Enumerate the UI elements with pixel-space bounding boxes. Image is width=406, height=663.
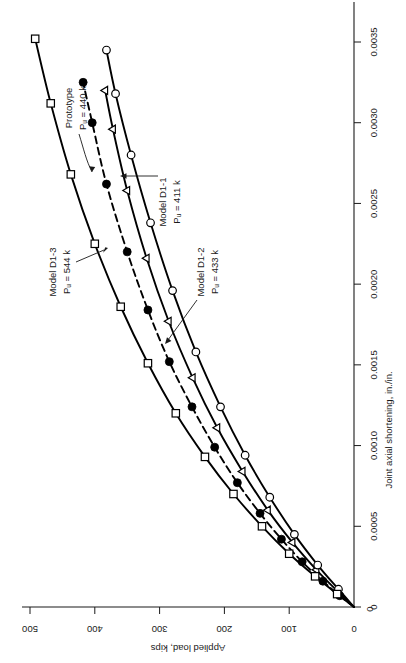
- marker-open-circle: [127, 151, 135, 159]
- marker-open-circle: [314, 561, 322, 569]
- marker-open-square: [172, 410, 179, 417]
- marker-model-d1-2: [291, 531, 299, 539]
- marker-filled-circle: [319, 577, 327, 585]
- marker-prototype: [277, 535, 285, 543]
- annotation-d1-2-label: Model D1-2: [195, 247, 206, 296]
- marker-prototype: [233, 479, 241, 487]
- annotation-d1-3-sub: Pᵤ = 544 k: [61, 250, 72, 294]
- marker-open-square: [230, 490, 237, 497]
- marker-model-d1-2: [266, 493, 274, 501]
- x-axis-tick-label: 0.0030: [368, 108, 379, 137]
- y-axis-tick-label: 500: [22, 624, 38, 635]
- marker-filled-circle: [123, 248, 131, 256]
- marker-open-square: [258, 523, 265, 530]
- x-axis-tick-label: 0.0010: [368, 431, 379, 460]
- marker-open-circle: [291, 531, 299, 539]
- annotation-d1-3-label: Model D1-3: [47, 247, 58, 296]
- marker-model-d1-2: [241, 451, 249, 459]
- marker-open-square: [67, 171, 74, 178]
- marker-model-d1-2: [103, 46, 111, 54]
- marker-open-square: [333, 590, 340, 597]
- marker-filled-circle: [211, 443, 219, 451]
- marker-prototype: [123, 248, 131, 256]
- marker-prototype: [298, 558, 306, 566]
- marker-prototype: [165, 358, 173, 366]
- marker-open-square: [286, 550, 293, 557]
- marker-open-circle: [112, 90, 120, 98]
- marker-filled-circle: [88, 119, 96, 127]
- x-axis-tick-label: 0.0025: [368, 189, 379, 218]
- marker-prototype: [319, 577, 327, 585]
- marker-model-d1-3: [67, 171, 74, 178]
- y-axis-title: Applied load, kips: [151, 643, 226, 654]
- marker-filled-circle: [102, 180, 110, 188]
- y-axis-tick-label: 100: [281, 624, 297, 635]
- marker-open-circle: [147, 219, 155, 227]
- marker-open-circle: [192, 348, 200, 356]
- marker-filled-circle: [233, 479, 241, 487]
- x-axis-origin-label: 0: [364, 606, 375, 611]
- marker-prototype: [102, 180, 110, 188]
- marker-model-d1-3: [31, 35, 38, 42]
- marker-filled-circle: [188, 403, 196, 411]
- marker-model-d1-3: [47, 100, 54, 107]
- x-axis-tick-label: 0.0015: [368, 350, 379, 379]
- marker-open-square: [91, 240, 98, 247]
- marker-filled-circle: [256, 509, 264, 517]
- marker-model-d1-3: [333, 590, 340, 597]
- marker-model-d1-3: [258, 523, 265, 530]
- marker-prototype: [256, 509, 264, 517]
- annotation-prototype-sub: Pᵤ = 440 k: [77, 86, 88, 130]
- chart-figure: 00.00050.00100.00150.00200.00250.00300.0…: [0, 0, 406, 663]
- marker-model-d1-2: [217, 403, 225, 411]
- marker-model-d1-2: [314, 561, 322, 569]
- marker-filled-circle: [165, 358, 173, 366]
- marker-open-circle: [169, 287, 177, 295]
- annotation-prototype-label: Prototype: [63, 88, 74, 129]
- y-axis-tick-label: 300: [152, 624, 168, 635]
- marker-model-d1-3: [311, 573, 318, 580]
- load-shortening-plot: 00.00050.00100.00150.00200.00250.00300.0…: [0, 0, 406, 663]
- marker-prototype: [211, 443, 219, 451]
- annotation-d1-2-sub: Pᵤ = 433 k: [209, 250, 220, 294]
- annotation-d1-1-label: Model D1-1: [157, 177, 168, 226]
- marker-open-square: [47, 100, 54, 107]
- marker-open-circle: [241, 451, 249, 459]
- marker-model-d1-3: [172, 410, 179, 417]
- x-axis-title: Joint axial shortening, in./in.: [383, 371, 394, 488]
- marker-model-d1-2: [147, 219, 155, 227]
- marker-prototype: [144, 306, 152, 314]
- marker-open-square: [117, 303, 124, 310]
- marker-filled-circle: [298, 558, 306, 566]
- marker-model-d1-2: [112, 90, 120, 98]
- marker-filled-circle: [144, 306, 152, 314]
- annotation-d1-1-sub: Pᵤ = 411 k: [171, 180, 182, 224]
- marker-model-d1-3: [230, 490, 237, 497]
- marker-prototype: [88, 119, 96, 127]
- y-axis-tick-label: 400: [87, 624, 103, 635]
- x-axis-tick-label: 0.0035: [368, 27, 379, 56]
- marker-open-square: [144, 360, 151, 367]
- y-axis-tick-label: 200: [216, 624, 232, 635]
- marker-model-d1-3: [201, 453, 208, 460]
- marker-prototype: [79, 78, 87, 86]
- x-axis-tick-label: 0.0005: [368, 512, 379, 541]
- marker-model-d1-2: [192, 348, 200, 356]
- marker-model-d1-2: [127, 151, 135, 159]
- marker-open-circle: [266, 493, 274, 501]
- marker-model-d1-3: [286, 550, 293, 557]
- marker-model-d1-3: [117, 303, 124, 310]
- marker-model-d1-3: [144, 360, 151, 367]
- plot-background: [0, 0, 406, 663]
- marker-open-square: [311, 573, 318, 580]
- marker-model-d1-3: [91, 240, 98, 247]
- marker-open-square: [201, 453, 208, 460]
- y-axis-tick-label: 0: [351, 624, 356, 635]
- marker-open-circle: [103, 46, 111, 54]
- marker-filled-circle: [277, 535, 285, 543]
- marker-model-d1-2: [169, 287, 177, 295]
- x-axis-tick-label: 0.0020: [368, 270, 379, 299]
- marker-open-square: [31, 35, 38, 42]
- marker-open-circle: [217, 403, 225, 411]
- marker-filled-circle: [79, 78, 87, 86]
